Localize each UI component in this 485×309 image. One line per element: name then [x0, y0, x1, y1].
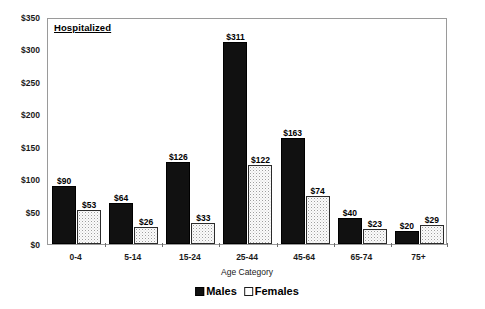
bar-group: $126$33 — [162, 19, 219, 244]
x-axis-tick — [277, 243, 278, 247]
bar-males-45-64: $163 — [281, 138, 305, 244]
x-category-label: 0-4 — [69, 252, 81, 262]
x-category-label: 65-74 — [350, 252, 372, 262]
bar-females-0-4: $53 — [77, 210, 101, 244]
bar-males-5-14: $64 — [109, 203, 133, 245]
x-axis-tick — [447, 243, 448, 247]
bar-group: $90$53 — [48, 19, 105, 244]
bar-value-label: $90 — [57, 177, 71, 186]
bar-males-65-74: $40 — [338, 218, 362, 244]
x-axis-tick — [162, 243, 163, 247]
bar-females-45-64: $74 — [306, 196, 330, 244]
x-axis-tick — [105, 243, 106, 247]
bar-value-label: $26 — [139, 218, 153, 227]
bar-group: $20$29 — [391, 19, 448, 244]
bar-value-label: $33 — [196, 214, 210, 223]
bar-group: $40$23 — [334, 19, 391, 244]
y-tick-label: $200 — [21, 111, 40, 120]
x-axis-title: Age Category — [221, 267, 273, 277]
bar-value-label: $74 — [311, 187, 325, 196]
y-tick-label: $350 — [21, 14, 40, 23]
bar-group: $311$122 — [219, 19, 276, 244]
legend-entry-females: Females — [244, 285, 299, 297]
bar-group: $163$74 — [277, 19, 334, 244]
y-tick-label: $150 — [21, 143, 40, 152]
bar-chart: $0$50$100$150$200$250$300$350 $90$53$64$… — [0, 0, 485, 309]
y-tick-label: $0 — [31, 241, 40, 250]
plot-inner: $90$53$64$26$126$33$311$122$163$74$40$23… — [48, 19, 446, 244]
legend-swatch-icon — [244, 287, 253, 296]
bar-females-5-14: $26 — [134, 227, 158, 244]
bar-value-label: $64 — [114, 194, 128, 203]
bar-value-label: $122 — [251, 156, 270, 165]
bar-males-25-44: $311 — [223, 42, 247, 244]
bar-value-label: $23 — [368, 220, 382, 229]
panel-title: Hospitalized — [54, 22, 111, 33]
bar-value-label: $126 — [169, 153, 188, 162]
legend-swatch-icon — [195, 287, 204, 296]
bar-value-label: $40 — [343, 209, 357, 218]
bar-males-0-4: $90 — [52, 186, 76, 244]
bar-value-label: $53 — [82, 201, 96, 210]
x-category-label: 45-64 — [293, 252, 315, 262]
bar-females-25-44: $122 — [248, 165, 272, 244]
bar-value-label: $163 — [283, 129, 302, 138]
bar-males-15-24: $126 — [166, 162, 190, 244]
bar-males-75+: $20 — [395, 231, 419, 244]
y-tick-label: $100 — [21, 176, 40, 185]
bar-group: $64$26 — [105, 19, 162, 244]
plot-area: $90$53$64$26$126$33$311$122$163$74$40$23… — [47, 18, 447, 245]
x-category-label: 75+ — [411, 252, 425, 262]
legend-label: Males — [206, 285, 237, 297]
bar-value-label: $311 — [226, 33, 244, 42]
x-category-label: 5-14 — [124, 252, 141, 262]
x-category-label: 15-24 — [179, 252, 201, 262]
bar-females-75+: $29 — [420, 225, 444, 244]
y-tick-label: $50 — [26, 208, 40, 217]
y-axis: $0$50$100$150$200$250$300$350 — [0, 0, 44, 309]
x-category-label: 25-44 — [236, 252, 258, 262]
x-axis-tick — [391, 243, 392, 247]
x-axis-tick — [334, 243, 335, 247]
legend-label: Females — [255, 285, 299, 297]
x-axis-tick — [219, 243, 220, 247]
chart-legend: MalesFemales — [195, 285, 299, 297]
bar-females-15-24: $33 — [191, 223, 215, 244]
legend-entry-males: Males — [195, 285, 237, 297]
bar-value-label: $29 — [425, 216, 439, 225]
y-tick-label: $250 — [21, 78, 40, 87]
bar-females-65-74: $23 — [363, 229, 387, 244]
bar-value-label: $20 — [400, 222, 414, 231]
y-tick-label: $300 — [21, 46, 40, 55]
